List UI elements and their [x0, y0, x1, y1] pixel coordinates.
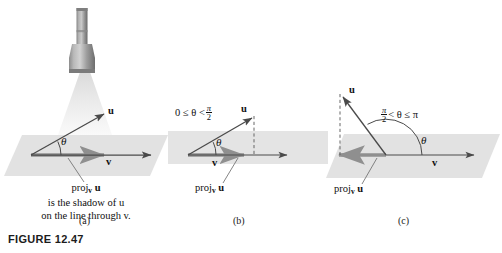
caption-proj-arg: u: [95, 182, 101, 193]
angle-label-a: θ: [61, 136, 66, 147]
sublabel-a: (a): [79, 216, 90, 226]
inequality-c-frac-num: π: [381, 106, 387, 115]
sublabel-b: (b): [233, 216, 245, 226]
figure-container: u v θ projv u is the shadow of u on the …: [0, 0, 502, 253]
caption-proj-sub: v: [88, 186, 92, 195]
inequality-c-fraction: π2: [381, 106, 387, 125]
inequality-b-frac-num: π: [206, 104, 212, 113]
vector-u-label-c: u: [349, 85, 355, 96]
vector-v-label-c: v: [432, 158, 437, 169]
proj-label-b-sub: v: [212, 186, 216, 195]
vector-u-label-a: u: [108, 106, 114, 117]
plane-b: [168, 131, 328, 164]
panel-b-graphic: [168, 0, 328, 253]
proj-label-c-main: proj: [334, 183, 351, 194]
inequality-b-fraction: π2: [206, 104, 212, 123]
angle-label-b: θ: [216, 137, 221, 148]
proj-label-b-arg: u: [218, 182, 224, 193]
proj-label-c-sub: v: [351, 187, 355, 196]
vector-v-label-b: v: [212, 158, 217, 169]
caption-proj-line: projv u: [0, 182, 172, 197]
caption-proj-main: proj: [71, 182, 88, 193]
panel-c: u π2< θ ≤ π v θ projv u (c): [322, 0, 502, 253]
proj-label-c-arg: u: [357, 183, 363, 194]
inequality-b: 0 ≤ θ <π2: [175, 104, 213, 123]
panel-b: 0 ≤ θ <π2 u v θ projv u (b): [168, 0, 328, 253]
proj-label-b-main: proj: [195, 182, 212, 193]
caption-line-1: is the shadow of u: [0, 197, 172, 210]
vector-u-label-b: u: [241, 104, 247, 115]
inequality-b-frac-den: 2: [206, 112, 212, 122]
proj-label-c: projv u: [334, 184, 363, 195]
inequality-b-left: 0 ≤ θ <: [175, 107, 205, 118]
flashlight-icon: [69, 8, 95, 73]
inequality-c-right: < θ ≤ π: [388, 109, 418, 120]
angle-label-c: θ: [421, 135, 426, 146]
figure-number-label: FIGURE 12.47: [8, 233, 84, 245]
vector-v-label-a: v: [106, 157, 111, 168]
inequality-c-frac-den: 2: [381, 114, 387, 124]
panel-c-graphic: [322, 0, 502, 253]
sublabel-c: (c): [398, 216, 409, 226]
inequality-c: π2< θ ≤ π: [380, 106, 418, 125]
panel-a: u v θ projv u is the shadow of u on the …: [0, 0, 172, 253]
proj-label-b: projv u: [195, 183, 224, 194]
